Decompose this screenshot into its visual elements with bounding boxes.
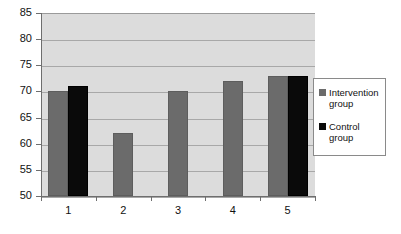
y-axis-tick-label: 65: [2, 112, 32, 123]
x-axis-tick-label: 5: [268, 204, 308, 216]
legend-label-intervention-line2: group: [329, 98, 385, 109]
y-axis-tick-label: 70: [2, 85, 32, 96]
x-axis-tick: [205, 197, 206, 201]
legend-swatch-control-icon: [319, 123, 326, 130]
legend-label-control-line1: Control: [329, 121, 360, 132]
x-axis-tick: [151, 197, 152, 201]
bar-chart: 5055606570758085 12345 Intervention grou…: [0, 0, 401, 234]
chart-legend: Intervention group Control group: [313, 78, 386, 156]
gridline: [42, 197, 315, 198]
x-axis-tick: [41, 197, 42, 201]
y-axis-tick: [36, 170, 41, 171]
legend-label-control-line2: group: [329, 132, 385, 143]
x-axis-tick-label: 1: [48, 204, 88, 216]
bar-5-intervention: [268, 76, 288, 196]
legend-entry-intervention: Intervention group: [319, 87, 385, 109]
legend-label-intervention-line1: Intervention: [329, 87, 379, 98]
x-axis-tick-label: 3: [158, 204, 198, 216]
bar-1-control: [68, 86, 88, 196]
bar-2-intervention: [113, 133, 133, 196]
y-axis-tick-label: 55: [2, 164, 32, 175]
y-axis-tick: [36, 39, 41, 40]
bar-1-intervention: [48, 91, 68, 196]
x-axis-line: [41, 196, 316, 197]
y-axis-tick-label: 60: [2, 138, 32, 149]
bars-layer: [42, 13, 315, 196]
bar-4-intervention: [223, 81, 243, 196]
x-axis-tick-label: 4: [213, 204, 253, 216]
x-axis-tick-label: 2: [103, 204, 143, 216]
y-axis-tick-label: 80: [2, 33, 32, 44]
y-axis-tick-label: 75: [2, 59, 32, 70]
bar-3-intervention: [168, 91, 188, 196]
x-axis-tick: [315, 197, 316, 201]
y-axis-tick-label: 85: [2, 7, 32, 18]
y-axis-tick: [36, 13, 41, 14]
y-axis-tick: [36, 118, 41, 119]
y-axis-tick: [36, 144, 41, 145]
legend-entry-control: Control group: [319, 121, 385, 143]
bar-5-control: [288, 76, 308, 196]
y-axis-tick-label: 50: [2, 190, 32, 201]
x-axis-tick: [96, 197, 97, 201]
y-axis-tick: [36, 91, 41, 92]
x-axis-tick: [260, 197, 261, 201]
y-axis-tick: [36, 65, 41, 66]
legend-swatch-intervention-icon: [319, 89, 326, 96]
